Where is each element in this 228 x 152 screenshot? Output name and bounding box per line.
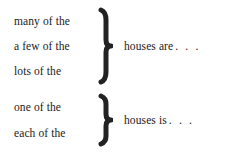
- ellipsis-text: . . .: [167, 114, 194, 126]
- phrase-item: each of the: [14, 120, 96, 146]
- ellipsis-text: . . .: [173, 40, 200, 52]
- brace-container-plural: [96, 7, 114, 85]
- result-text: houses is: [124, 114, 167, 126]
- phrase-list-plural: many of the a few of the lots of the: [0, 9, 96, 84]
- phrase-list-singular: one of the each of the: [0, 94, 96, 146]
- phrase-item: many of the: [14, 9, 96, 34]
- grammar-brace-diagram: many of the a few of the lots of the hou…: [0, 0, 228, 152]
- result-text: houses are: [124, 40, 173, 52]
- brace-container-singular: [96, 93, 114, 147]
- right-curly-brace-icon: [97, 93, 113, 147]
- phrase-item: one of the: [14, 94, 96, 120]
- phrase-item: a few of the: [14, 34, 96, 59]
- right-curly-brace-icon: [97, 7, 113, 85]
- agreement-result-plural: houses are. . .: [114, 40, 201, 52]
- agreement-result-singular: houses is. . .: [114, 114, 194, 126]
- phrase-item: lots of the: [14, 59, 96, 84]
- phrase-group-singular: one of the each of the houses is. . .: [0, 92, 194, 148]
- phrase-group-plural: many of the a few of the lots of the hou…: [0, 6, 201, 86]
